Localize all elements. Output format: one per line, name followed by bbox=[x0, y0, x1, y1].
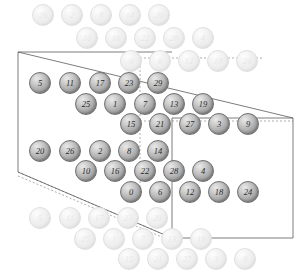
ghost-sphere: 10 bbox=[76, 27, 98, 49]
sphere-label: 3 bbox=[214, 255, 218, 264]
lattice-sphere: 5 bbox=[29, 72, 51, 94]
lattice-sphere: 6 bbox=[149, 181, 171, 203]
sphere-label: 24 bbox=[244, 188, 253, 197]
ghost-sphere: 27 bbox=[176, 248, 198, 270]
sphere-label: 29 bbox=[153, 214, 162, 223]
ghost-sphere: 4 bbox=[192, 27, 214, 49]
lattice-sphere: 22 bbox=[134, 160, 156, 182]
lattice-sphere: 27 bbox=[179, 113, 201, 135]
ghost-sphere: 21 bbox=[147, 248, 169, 270]
sphere-label: 21 bbox=[154, 255, 163, 264]
sphere-label: 16 bbox=[112, 34, 121, 43]
lattice-sphere: 24 bbox=[237, 181, 259, 203]
sphere-label: 6 bbox=[158, 188, 162, 197]
ghost-sphere: 20 bbox=[148, 4, 170, 26]
lattice-sphere: 1 bbox=[104, 93, 126, 115]
sphere-label: 21 bbox=[156, 120, 165, 129]
lattice-sphere: 11 bbox=[59, 72, 81, 94]
lattice-diagram: 2628142010162228406121824511172329251713… bbox=[0, 0, 308, 277]
sphere-label: 19 bbox=[199, 100, 208, 109]
lattice-sphere: 2 bbox=[89, 140, 111, 162]
ghost-sphere: 1 bbox=[103, 228, 125, 250]
sphere-label: 26 bbox=[66, 147, 75, 156]
ghost-sphere: 23 bbox=[117, 207, 139, 229]
lattice-sphere: 14 bbox=[147, 140, 169, 162]
sphere-label: 24 bbox=[243, 57, 252, 66]
ghost-sphere: 24 bbox=[236, 50, 258, 72]
lattice-sphere: 13 bbox=[163, 93, 185, 115]
lattice-sphere: 9 bbox=[237, 113, 259, 135]
sphere-label: 25 bbox=[81, 235, 90, 244]
lattice-sphere: 3 bbox=[208, 113, 230, 135]
lattice-sphere: 7 bbox=[134, 93, 156, 115]
ghost-sphere: 28 bbox=[163, 27, 185, 49]
lattice-sphere: 29 bbox=[147, 72, 169, 94]
ghost-sphere: 15 bbox=[118, 248, 140, 270]
sphere-label: 16 bbox=[111, 167, 120, 176]
ghost-sphere: 12 bbox=[178, 50, 200, 72]
sphere-label: 1 bbox=[112, 235, 116, 244]
sphere-label: 25 bbox=[82, 100, 91, 109]
sphere-label: 0 bbox=[129, 57, 133, 66]
sphere-label: 15 bbox=[125, 255, 134, 264]
sphere-label: 4 bbox=[201, 34, 205, 43]
sphere-label: 12 bbox=[185, 57, 194, 66]
lattice-sphere: 4 bbox=[192, 160, 214, 182]
sphere-label: 14 bbox=[126, 11, 135, 20]
sphere-label: 8 bbox=[99, 11, 103, 20]
sphere-label: 18 bbox=[214, 57, 223, 66]
ghost-sphere: 6 bbox=[149, 50, 171, 72]
sphere-label: 17 bbox=[95, 214, 104, 223]
sphere-label: 15 bbox=[127, 120, 136, 129]
sphere-label: 6 bbox=[158, 57, 162, 66]
sphere-layer: 2628142010162228406121824511172329251713… bbox=[0, 0, 308, 277]
sphere-label: 14 bbox=[154, 147, 163, 156]
sphere-label: 2 bbox=[98, 147, 102, 156]
sphere-label: 27 bbox=[183, 255, 192, 264]
ghost-sphere: 22 bbox=[134, 27, 156, 49]
sphere-label: 4 bbox=[201, 167, 205, 176]
ghost-sphere: 5 bbox=[29, 207, 51, 229]
ghost-sphere: 11 bbox=[59, 207, 81, 229]
ghost-sphere: 25 bbox=[74, 228, 96, 250]
ghost-sphere: 29 bbox=[146, 207, 168, 229]
sphere-label: 3 bbox=[217, 120, 221, 129]
lattice-sphere: 12 bbox=[179, 181, 201, 203]
sphere-label: 11 bbox=[66, 214, 74, 223]
ghost-sphere: 2 bbox=[61, 4, 83, 26]
sphere-label: 12 bbox=[186, 188, 195, 197]
sphere-label: 1 bbox=[113, 100, 117, 109]
ghost-sphere: 13 bbox=[161, 228, 183, 250]
sphere-label: 5 bbox=[38, 214, 42, 223]
sphere-label: 8 bbox=[127, 147, 131, 156]
ghost-sphere: 18 bbox=[207, 50, 229, 72]
sphere-label: 13 bbox=[168, 235, 177, 244]
sphere-label: 19 bbox=[197, 235, 206, 244]
sphere-label: 28 bbox=[170, 34, 179, 43]
sphere-label: 7 bbox=[141, 235, 145, 244]
lattice-sphere: 23 bbox=[118, 72, 140, 94]
sphere-label: 23 bbox=[124, 214, 133, 223]
lattice-sphere: 25 bbox=[75, 93, 97, 115]
lattice-sphere: 21 bbox=[149, 113, 171, 135]
sphere-label: 22 bbox=[141, 34, 150, 43]
ghost-sphere: 17 bbox=[88, 207, 110, 229]
ghost-sphere: 26 bbox=[32, 4, 54, 26]
ghost-sphere: 19 bbox=[190, 228, 212, 250]
sphere-label: 0 bbox=[129, 188, 133, 197]
lattice-sphere: 8 bbox=[118, 140, 140, 162]
sphere-label: 2 bbox=[70, 11, 74, 20]
sphere-label: 9 bbox=[243, 255, 247, 264]
lattice-sphere: 15 bbox=[120, 113, 142, 135]
ghost-sphere: 9 bbox=[234, 248, 256, 270]
sphere-label: 20 bbox=[155, 11, 164, 20]
lattice-sphere: 16 bbox=[104, 160, 126, 182]
sphere-label: 11 bbox=[66, 79, 74, 88]
lattice-sphere: 19 bbox=[192, 93, 214, 115]
sphere-label: 10 bbox=[83, 34, 92, 43]
lattice-sphere: 26 bbox=[59, 140, 81, 162]
sphere-label: 22 bbox=[141, 167, 150, 176]
sphere-label: 28 bbox=[170, 167, 179, 176]
sphere-label: 13 bbox=[170, 100, 179, 109]
ghost-sphere: 8 bbox=[90, 4, 112, 26]
